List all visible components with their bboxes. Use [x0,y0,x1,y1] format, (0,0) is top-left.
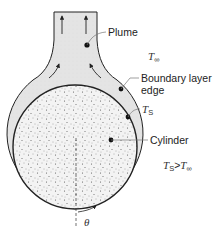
boundary-layer-edge-label-line2: edge [141,84,165,96]
cylinder-body [13,85,137,209]
cylinder-label: Cylinder [150,134,189,146]
surface-temperature-label: TS [142,103,153,117]
t-infinity-label: T∞ [148,50,159,64]
condition-label: TS>T∞ [163,159,192,173]
plume-label: Plume [108,26,138,38]
boundary-layer-edge-label: Boundary layer [141,72,212,84]
theta-label: θ [84,216,90,228]
cylinder-plume-diagram: Plume T∞ Boundary layer edge TS Cylinder… [0,0,220,232]
